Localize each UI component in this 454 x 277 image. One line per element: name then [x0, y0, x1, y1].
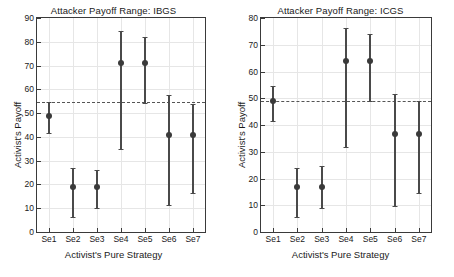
error-bar-cap	[344, 28, 349, 29]
x-tick-label: Se7	[411, 235, 426, 244]
error-bar	[144, 37, 146, 103]
y-tick-label: 80	[249, 14, 258, 23]
error-bar-cap	[71, 168, 76, 169]
y-tick-label: 60	[249, 67, 258, 76]
y-tick-mark	[37, 113, 41, 114]
data-point-marker	[142, 60, 148, 66]
data-point-marker	[416, 131, 422, 137]
y-tick-label: 20	[25, 180, 34, 189]
y-tick-label: 0	[29, 228, 34, 237]
x-tick-label: Se7	[185, 235, 200, 244]
error-bar-cap	[271, 86, 276, 87]
error-bar-cap	[271, 121, 276, 122]
x-tick-mark	[145, 228, 146, 232]
error-bar	[168, 95, 170, 205]
data-point-marker	[190, 132, 196, 138]
error-bar	[192, 104, 194, 193]
chart-title: Attacker Payoff Range: ICGS	[227, 5, 454, 16]
y-tick-mark	[37, 66, 41, 67]
error-bar	[296, 168, 298, 217]
y-tick-mark	[261, 232, 265, 233]
x-axis-label: Activist's Pure Strategy	[0, 249, 227, 260]
error-bar-cap	[95, 208, 100, 209]
y-tick-mark	[261, 18, 265, 19]
x-tick-mark	[419, 228, 420, 232]
y-tick-mark	[37, 42, 41, 43]
chart-title: Attacker Payoff Range: IBGS	[0, 5, 227, 16]
error-bar-cap	[295, 217, 300, 218]
error-bar-cap	[392, 206, 397, 207]
error-bar-cap	[344, 147, 349, 148]
y-tick-mark	[37, 137, 41, 138]
y-tick-mark	[261, 45, 265, 46]
y-tick-mark	[37, 89, 41, 90]
y-tick-mark	[261, 205, 265, 206]
x-tick-mark	[273, 228, 274, 232]
error-bar-cap	[368, 101, 373, 102]
error-bar	[72, 168, 74, 217]
chart-panel-icgs: Attacker Payoff Range: ICGS 010203040506…	[227, 0, 454, 277]
error-bar-cap	[71, 217, 76, 218]
data-point-marker	[294, 184, 300, 190]
y-tick-label: 20	[249, 174, 258, 183]
error-bar	[120, 31, 122, 148]
x-tick-label: Se4	[113, 235, 128, 244]
x-tick-label: Se6	[387, 235, 402, 244]
y-tick-label: 40	[25, 133, 34, 142]
y-tick-label: 80	[25, 38, 34, 47]
error-bar	[345, 28, 347, 148]
x-tick-mark	[193, 228, 194, 232]
y-tick-label: 90	[25, 14, 34, 23]
y-tick-mark	[261, 152, 265, 153]
y-tick-label: 0	[253, 228, 258, 237]
y-tick-mark	[37, 161, 41, 162]
y-tick-mark	[37, 208, 41, 209]
y-tick-mark	[37, 18, 41, 19]
x-tick-mark	[395, 228, 396, 232]
y-tick-label: 10	[249, 201, 258, 210]
x-tick-label: Se2	[65, 235, 80, 244]
x-tick-mark	[121, 228, 122, 232]
error-bar-cap	[319, 166, 324, 167]
chart-panel-ibgs: Attacker Payoff Range: IBGS 010203040506…	[0, 0, 227, 277]
x-tick-mark	[322, 228, 323, 232]
y-tick-label: 30	[25, 156, 34, 165]
x-tick-mark	[49, 228, 50, 232]
data-point-marker	[118, 60, 124, 66]
data-point-marker	[46, 113, 52, 119]
error-bar-cap	[191, 193, 196, 194]
data-point-marker	[392, 131, 398, 137]
x-tick-mark	[297, 228, 298, 232]
x-tick-mark	[73, 228, 74, 232]
data-point-marker	[94, 184, 100, 190]
y-axis-label: Activist's Payoff	[12, 102, 23, 168]
x-tick-label: Se5	[137, 235, 152, 244]
error-bar	[369, 34, 371, 101]
data-point-marker	[70, 184, 76, 190]
x-tick-label: Se6	[161, 235, 176, 244]
y-tick-label: 10	[25, 204, 34, 213]
x-tick-mark	[97, 228, 98, 232]
x-tick-label: Se5	[363, 235, 378, 244]
error-bar-cap	[143, 103, 148, 104]
y-tick-label: 50	[25, 109, 34, 118]
error-bar-cap	[95, 170, 100, 171]
error-bar-cap	[143, 37, 148, 38]
gridline-vertical	[273, 18, 274, 232]
error-bar-cap	[47, 102, 52, 103]
data-point-marker	[270, 98, 276, 104]
error-bar-cap	[295, 168, 300, 169]
error-bar-cap	[191, 104, 196, 105]
error-bar-cap	[119, 149, 124, 150]
y-tick-mark	[37, 232, 41, 233]
y-tick-label: 30	[249, 148, 258, 157]
error-bar	[418, 101, 420, 193]
y-tick-label: 70	[25, 61, 34, 70]
error-bar-cap	[167, 205, 172, 206]
y-tick-mark	[261, 72, 265, 73]
error-bar-cap	[368, 34, 373, 35]
x-tick-label: Se4	[338, 235, 353, 244]
figure: Attacker Payoff Range: IBGS 010203040506…	[0, 0, 454, 277]
y-tick-mark	[37, 184, 41, 185]
data-point-marker	[166, 132, 172, 138]
